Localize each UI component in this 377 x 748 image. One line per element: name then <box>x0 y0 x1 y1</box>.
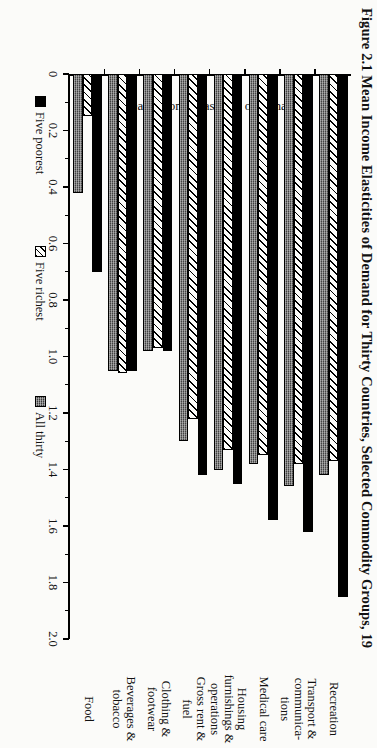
bar-all <box>143 74 153 351</box>
legend-item-richest: Five richest <box>32 246 47 321</box>
bar-all <box>319 74 329 475</box>
category-separator <box>209 69 210 74</box>
category-separator <box>174 69 175 74</box>
bar-richest <box>153 74 163 348</box>
category-label: Beverages & tobacco <box>109 655 136 748</box>
category-separator <box>139 69 140 74</box>
bar-all <box>214 74 224 470</box>
legend-label: All thirty <box>33 412 47 458</box>
chart-legend: Five poorestFive richestAll thirty <box>11 96 55 636</box>
category-label: Food <box>81 655 95 748</box>
legend-item-poorest: Five poorest <box>32 96 47 174</box>
category-label: Transport & communica- tions <box>278 655 319 748</box>
axis-baseline <box>68 74 70 639</box>
bar-all <box>249 74 259 464</box>
bar-richest <box>118 74 128 373</box>
legend-swatch-all <box>35 396 46 407</box>
plot-area: Mean income elasticity of demand 00.20.4… <box>70 74 351 639</box>
bar-all <box>284 74 294 486</box>
bar-richest <box>258 74 268 455</box>
bar-all <box>108 74 118 371</box>
axis-tick-label: 0 <box>45 71 60 77</box>
category-separator <box>244 69 245 74</box>
bar-richest <box>83 74 93 116</box>
bar-poorest <box>92 74 102 272</box>
bar-richest <box>188 74 198 419</box>
legend-label: Five poorest <box>33 112 47 174</box>
category-separator <box>314 69 315 74</box>
category-label: Clothing & footwear <box>144 655 171 748</box>
category-label: Medical care <box>256 655 270 748</box>
category-label: Recreation <box>327 655 341 748</box>
category-separator <box>104 69 105 74</box>
legend-label: Five richest <box>33 262 47 321</box>
bar-all <box>73 74 83 193</box>
bar-poorest <box>163 74 173 351</box>
bar-richest <box>223 74 233 450</box>
category-label: Gross rent & fuel <box>179 655 206 748</box>
figure-title: Figure 2.1 Mean Income Elasticities of D… <box>358 8 375 653</box>
bar-poorest <box>233 74 243 484</box>
bar-poorest <box>128 74 138 371</box>
category-separator <box>279 69 280 74</box>
legend-swatch-richest <box>35 246 46 257</box>
bar-richest <box>329 74 339 461</box>
bar-richest <box>294 74 304 464</box>
legend-swatch-poorest <box>35 96 46 107</box>
bar-poorest <box>338 74 348 597</box>
bar-all <box>179 74 189 441</box>
bar-poorest <box>198 74 208 475</box>
category-label: Housing furnishings & operations <box>208 655 249 748</box>
bar-poorest <box>268 74 278 520</box>
legend-item-all: All thirty <box>32 396 47 458</box>
bar-poorest <box>303 74 313 532</box>
